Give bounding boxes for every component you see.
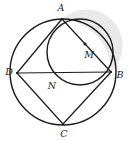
shaded-lune-region xyxy=(62,9,123,72)
label-C: C xyxy=(60,128,68,139)
label-A: A xyxy=(57,2,65,13)
segment-CB xyxy=(63,72,111,124)
point-C-dot xyxy=(62,123,64,125)
geometry-figure: A D B C M N xyxy=(0,0,128,141)
point-A-dot xyxy=(61,18,63,20)
label-B: B xyxy=(116,69,124,80)
geometry-canvas: A D B C M N xyxy=(0,0,128,141)
label-N: N xyxy=(47,80,57,91)
label-D: D xyxy=(4,66,13,77)
point-D-dot xyxy=(16,72,18,74)
segment-AD xyxy=(17,19,62,73)
label-M: M xyxy=(83,49,94,60)
point-B-dot xyxy=(110,71,112,73)
point-M-dot xyxy=(84,43,87,46)
inner-circle xyxy=(47,19,113,85)
segment-DB xyxy=(17,72,111,73)
